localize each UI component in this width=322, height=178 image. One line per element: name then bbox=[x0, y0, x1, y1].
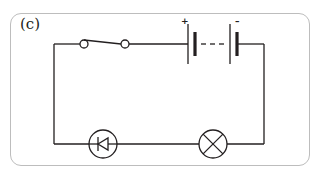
battery-positive-label: + bbox=[181, 16, 189, 26]
lamp-icon bbox=[199, 130, 227, 158]
diode-icon bbox=[89, 130, 117, 158]
battery-icon bbox=[188, 24, 237, 64]
battery-negative-label: – bbox=[235, 16, 240, 26]
wires bbox=[54, 44, 264, 144]
circuit-diagram: + – bbox=[0, 0, 322, 178]
switch-icon bbox=[80, 40, 129, 48]
